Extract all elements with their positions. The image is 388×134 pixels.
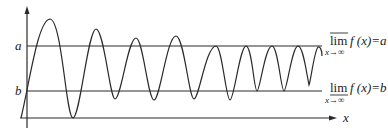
limsup-subscript: x→∞ [324, 47, 344, 57]
liminf-annotation: lim f (x)=b x→∞ [324, 80, 387, 105]
x-axis-label: x [342, 110, 349, 125]
limsup-expression: f (x)=a [350, 33, 387, 48]
y-axis [25, 6, 30, 128]
limsup-annotation: lim f (x)=a x→∞ [324, 33, 387, 57]
level-b: b [15, 83, 322, 98]
y-axis-arrow-icon [25, 6, 30, 14]
limsup-liminf-diagram: x a b lim f (x)=a x→∞ lim f (x)=b x→∞ [0, 0, 388, 134]
function-curve [21, 19, 322, 118]
liminf-subscript: x→∞ [324, 95, 344, 105]
level-a-label: a [15, 38, 22, 53]
x-axis: x [20, 110, 349, 125]
x-axis-arrow-icon [329, 116, 337, 121]
level-b-label: b [15, 83, 22, 98]
liminf-expression: f (x)=b [350, 80, 387, 95]
limsup-operator: lim [330, 33, 347, 48]
liminf-operator: lim [330, 80, 347, 95]
